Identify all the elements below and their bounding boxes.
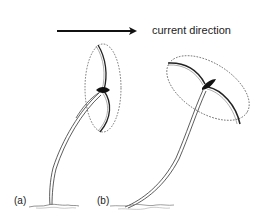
substrate-b xyxy=(110,204,174,206)
blade-upper-b xyxy=(168,63,205,84)
panel-label-a: (a) xyxy=(14,195,26,206)
figure-a xyxy=(29,44,121,208)
stem-b xyxy=(125,90,203,207)
fan-outline-b xyxy=(156,42,261,133)
node-a xyxy=(96,87,110,93)
current-direction-label: current direction xyxy=(152,24,231,36)
panel-label-b: (b) xyxy=(97,195,109,206)
substrate-a xyxy=(29,204,79,207)
figure-b xyxy=(110,42,260,209)
diagram-canvas: current direction (a) xyxy=(0,0,265,222)
stem-a xyxy=(50,93,99,205)
